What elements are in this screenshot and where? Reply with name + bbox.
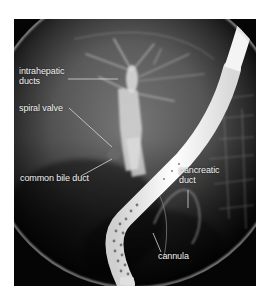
label-line: intrahepatic bbox=[19, 66, 64, 76]
label-line: cannula bbox=[158, 251, 189, 261]
label-common-bile-duct: common bile duct bbox=[20, 173, 89, 183]
label-intrahepatic-ducts: intrahepatic ducts bbox=[19, 66, 64, 86]
label-spiral-valve: spiral valve bbox=[19, 103, 63, 113]
label-line: pancreatic bbox=[179, 165, 220, 175]
label-pancreatic-duct: pancreatic duct bbox=[179, 165, 220, 185]
label-line: ducts bbox=[19, 76, 64, 86]
label-line: duct bbox=[179, 175, 220, 185]
label-line: common bile duct bbox=[20, 173, 89, 183]
xray-graphic bbox=[14, 19, 256, 286]
label-cannula: cannula bbox=[158, 251, 189, 261]
xray-image: intrahepatic ducts spiral valve common b… bbox=[14, 19, 256, 286]
label-line: spiral valve bbox=[19, 103, 63, 113]
